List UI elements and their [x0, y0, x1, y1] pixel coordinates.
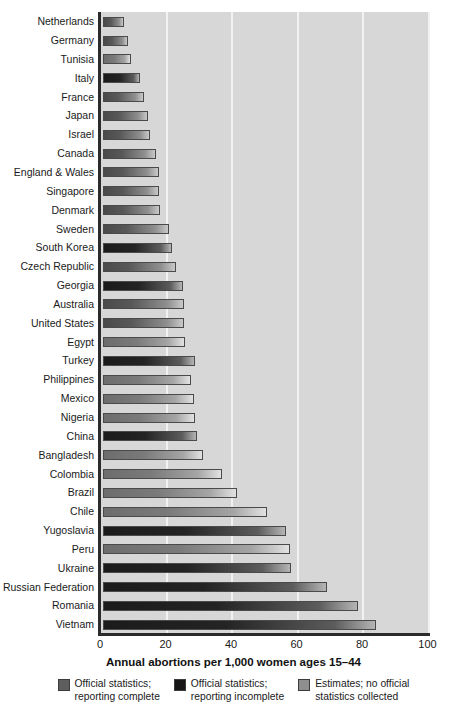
bar-rows: NetherlandsGermanyTunisiaItalyFranceJapa…	[0, 12, 467, 634]
bar-track	[100, 31, 467, 50]
chart-legend: Official statistics;reporting completeOf…	[0, 678, 467, 703]
bar-track	[100, 464, 467, 483]
bar-row: Israel	[0, 125, 467, 144]
bar-track	[100, 257, 467, 276]
bar-row: Egypt	[0, 332, 467, 351]
legend-swatch-icon	[174, 679, 186, 691]
bar-track	[100, 182, 467, 201]
bar-row: Georgia	[0, 276, 467, 295]
bar	[103, 243, 172, 253]
bar	[103, 54, 131, 64]
legend-label-line2: reporting complete	[75, 691, 160, 704]
bar	[103, 563, 291, 573]
bar	[103, 92, 144, 102]
bar-row: Ukraine	[0, 559, 467, 578]
bar-track	[100, 219, 467, 238]
bar-row: Chile	[0, 502, 467, 521]
bar-track	[100, 577, 467, 596]
bar-row-label: Peru	[0, 544, 100, 555]
bar-row-label: Nigeria	[0, 412, 100, 423]
x-tick-label: 40	[225, 638, 237, 650]
bar-track	[100, 540, 467, 559]
bar-row-label: Ukraine	[0, 563, 100, 574]
bar-row-label: Georgia	[0, 280, 100, 291]
bar-row: Australia	[0, 295, 467, 314]
bar-row: Czech Republic	[0, 257, 467, 276]
bar-track	[100, 427, 467, 446]
bar-track	[100, 238, 467, 257]
bar-track	[100, 483, 467, 502]
bar	[103, 413, 195, 423]
bar-row-label: Italy	[0, 73, 100, 84]
bar-row: Brazil	[0, 483, 467, 502]
bar-row: Tunisia	[0, 50, 467, 69]
bar	[103, 111, 148, 121]
bar-track	[100, 615, 467, 634]
bar-row-label: Singapore	[0, 186, 100, 197]
x-axis-ticks: 020406080100	[0, 638, 467, 654]
bar-row-label: Vietnam	[0, 619, 100, 630]
bar	[103, 337, 185, 347]
bar-row-label: Sweden	[0, 224, 100, 235]
bar-row: Philippines	[0, 370, 467, 389]
bar-track	[100, 200, 467, 219]
x-tick-label: 100	[418, 638, 436, 650]
legend-label: Official statistics;reporting incomplete	[191, 678, 284, 703]
bar	[103, 431, 197, 441]
x-tick-label: 0	[97, 638, 103, 650]
bar	[103, 507, 267, 517]
bar-row: Germany	[0, 31, 467, 50]
bar	[103, 318, 184, 328]
bar-row: Vietnam	[0, 615, 467, 634]
bar	[103, 17, 124, 27]
bar	[103, 281, 183, 291]
legend-swatch-icon	[298, 679, 310, 691]
x-tick-label: 80	[356, 638, 368, 650]
bar-row: Japan	[0, 106, 467, 125]
bar-row-label: Czech Republic	[0, 261, 100, 272]
bar-row: Colombia	[0, 464, 467, 483]
bar-track	[100, 87, 467, 106]
bar	[103, 601, 358, 611]
bar-row-label: Chile	[0, 506, 100, 517]
bar-row-label: Canada	[0, 148, 100, 159]
bar-row-label: Netherlands	[0, 16, 100, 27]
bar-row-label: Philippines	[0, 374, 100, 385]
bar	[103, 394, 194, 404]
legend-label: Official statistics;reporting complete	[75, 678, 160, 703]
bar	[103, 356, 195, 366]
bar	[103, 36, 128, 46]
bar-row: Russian Federation	[0, 577, 467, 596]
bar	[103, 450, 203, 460]
bar-row-label: Russian Federation	[0, 582, 100, 593]
bar	[103, 620, 376, 630]
chart-root: NetherlandsGermanyTunisiaItalyFranceJapa…	[0, 0, 467, 712]
bar	[103, 149, 156, 159]
bar-row-label: China	[0, 431, 100, 442]
bar	[103, 73, 140, 83]
bar	[103, 375, 191, 385]
bar	[103, 469, 222, 479]
bar-track	[100, 370, 467, 389]
bar-row: Nigeria	[0, 408, 467, 427]
bar-row: Yugoslavia	[0, 521, 467, 540]
bar-row: China	[0, 427, 467, 446]
bar-track	[100, 106, 467, 125]
bar-track	[100, 276, 467, 295]
bar-row: Italy	[0, 69, 467, 88]
bar-track	[100, 351, 467, 370]
bar-track	[100, 50, 467, 69]
bar-row-label: Denmark	[0, 205, 100, 216]
bar-row: Canada	[0, 144, 467, 163]
bar-row-label: Egypt	[0, 337, 100, 348]
x-tick-label: 60	[290, 638, 302, 650]
bar-row-label: United States	[0, 318, 100, 329]
bar	[103, 582, 327, 592]
bar-row-label: Israel	[0, 129, 100, 140]
bar	[103, 526, 286, 536]
bar-track	[100, 69, 467, 88]
bar-track	[100, 596, 467, 615]
bar-track	[100, 408, 467, 427]
bar-row-label: England & Wales	[0, 167, 100, 178]
bar-row-label: South Korea	[0, 242, 100, 253]
